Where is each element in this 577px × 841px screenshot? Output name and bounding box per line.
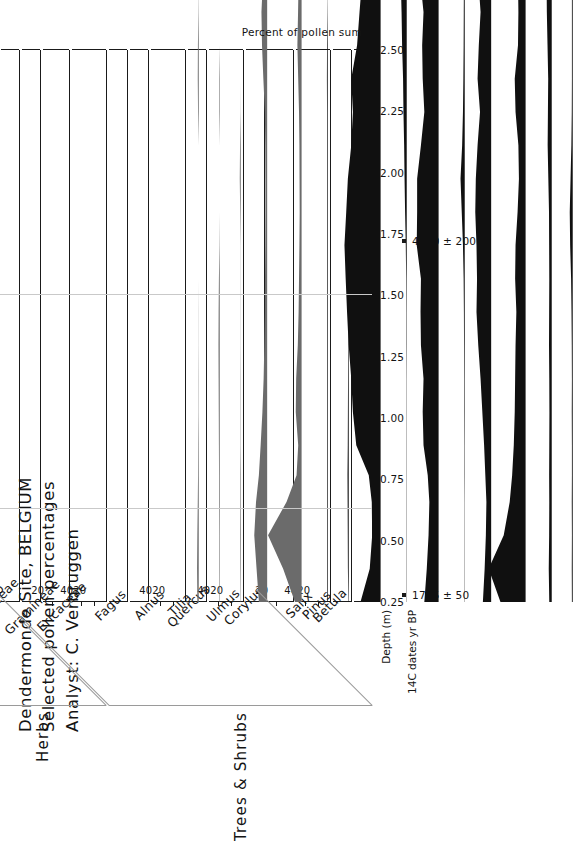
- percent-axis-label: Percent of pollen sum: [242, 26, 362, 38]
- curve-tick: [52, 602, 53, 606]
- depth-axis-label: Depth (m): [380, 610, 392, 664]
- zone-guide-line: [0, 508, 372, 509]
- curve-tick: [81, 602, 82, 606]
- curve-cerealia: [0, 0, 393, 602]
- curve-tick: [218, 602, 219, 606]
- zone-guide-line: [0, 294, 372, 295]
- c14-axis-label: 14C dates yr BP: [406, 610, 418, 694]
- curve-tick: [276, 602, 277, 606]
- group-label-herbs: Herbs: [34, 712, 52, 762]
- curve-tick: [318, 602, 319, 606]
- group-bracket: [0, 705, 106, 706]
- curve-tick: [94, 602, 95, 606]
- group-label-trees-shrubs: Trees & Shrubs: [232, 712, 250, 841]
- curve-tick: [231, 602, 232, 606]
- curve-tick: [173, 602, 174, 606]
- group-bracket: [109, 705, 372, 706]
